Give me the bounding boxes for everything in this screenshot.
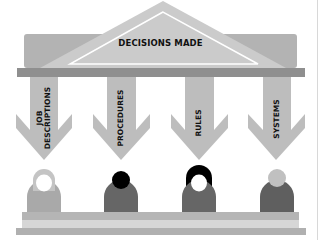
base-step-middle	[22, 220, 299, 228]
person-2-icon	[104, 171, 138, 212]
pillar-label-line2: DESCRIPTIONS	[44, 87, 52, 149]
base-step-bottom	[16, 228, 306, 235]
pillar-label-systems: SYSTEMS	[273, 99, 281, 138]
person-3-icon	[182, 165, 216, 212]
diagram-title: DECISIONS MADE	[0, 38, 321, 48]
base-step-top	[22, 212, 299, 220]
pillar-label-rules: RULES	[195, 109, 203, 136]
person-4-icon	[260, 169, 294, 212]
pillar-label-procedures: PROCEDURES	[117, 90, 125, 147]
pillar-label-job-descriptions: JOB DESCRIPTIONS	[36, 87, 52, 149]
page-edge-divider	[317, 0, 318, 240]
decisions-temple-diagram: DECISIONS MADE JOB DESCRIPTIONS PROCEDUR…	[0, 0, 321, 240]
person-1-icon	[27, 169, 61, 212]
beam	[17, 68, 305, 77]
